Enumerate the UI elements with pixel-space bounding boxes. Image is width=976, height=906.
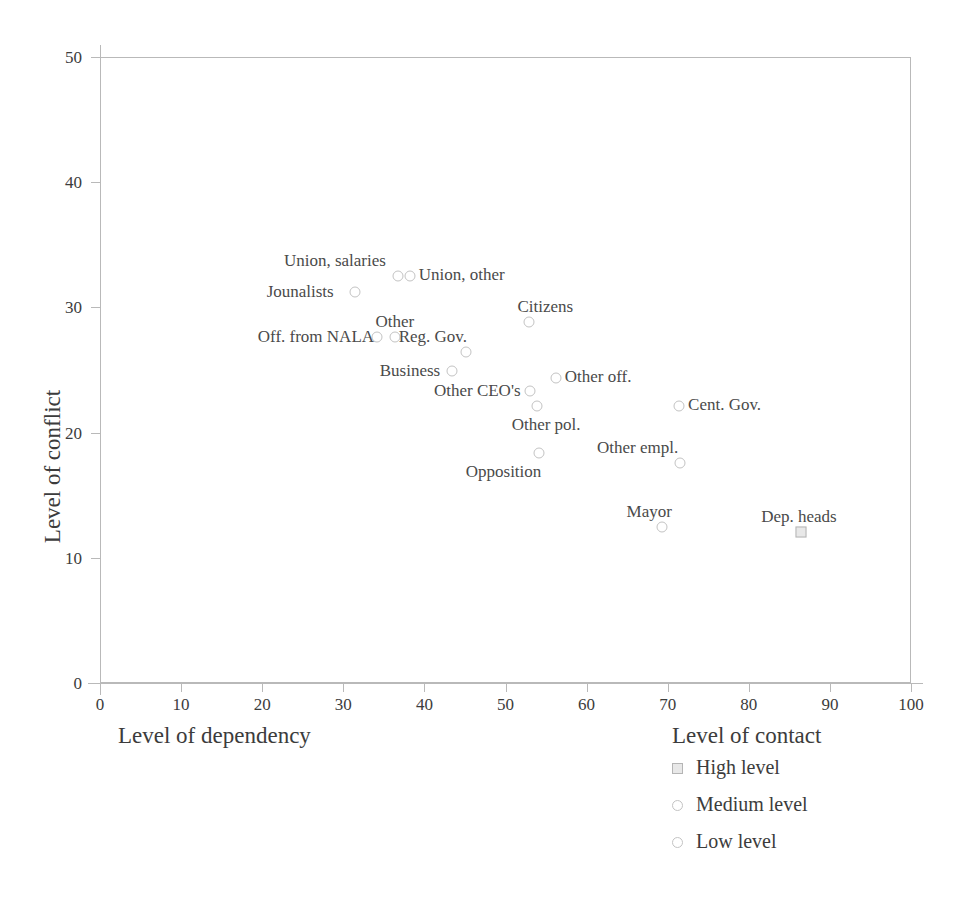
x-axis-tick-label: 20 (254, 696, 271, 713)
x-axis-tick (911, 683, 912, 692)
data-point-label: Dep. heads (761, 508, 837, 525)
data-point-label: Other pol. (512, 416, 581, 433)
data-point-label: Jounalists (267, 283, 334, 300)
legend-item-label: High level (696, 757, 780, 777)
plot-area (100, 57, 911, 683)
data-point[interactable] (532, 401, 543, 412)
data-point-label: Union, salaries (284, 252, 386, 269)
x-axis-tick-label: 100 (898, 696, 924, 713)
y-axis-tick (91, 307, 100, 308)
y-axis-tick (91, 433, 100, 434)
x-axis-tick (262, 683, 263, 692)
x-axis-tick-label: 40 (416, 696, 433, 713)
x-axis-tick-label: 0 (96, 696, 105, 713)
legend-marker-circle-icon (672, 800, 683, 811)
data-point[interactable] (674, 401, 685, 412)
y-axis-title-conflict: Level of conflict (41, 357, 64, 577)
data-point-label: Business (380, 362, 440, 379)
data-point[interactable] (460, 347, 471, 358)
data-point-label: Off. from NALA (258, 328, 374, 345)
x-axis-tick (749, 683, 750, 692)
data-point-label: Opposition (466, 463, 542, 480)
y-axis-tick-label: 0 (40, 675, 82, 692)
data-point[interactable] (393, 271, 404, 282)
marker-circle-icon (446, 366, 457, 377)
marker-circle-icon (657, 521, 668, 532)
data-point[interactable] (524, 386, 535, 397)
data-point[interactable] (404, 271, 415, 282)
data-point-label: Cent. Gov. (688, 396, 761, 413)
scatter-chart-figure: 010203040506070809010001020304050Union, … (0, 0, 976, 906)
x-axis-title-contact: Level of contact (672, 724, 821, 747)
data-point-label: Mayor (627, 503, 672, 520)
x-axis-tick-label: 10 (173, 696, 190, 713)
data-point[interactable] (550, 372, 561, 383)
data-point[interactable] (795, 526, 806, 537)
marker-circle-icon (674, 401, 685, 412)
x-axis-tick-label: 30 (335, 696, 352, 713)
x-axis-tick-label: 90 (821, 696, 838, 713)
legend-item-label: Low level (696, 831, 777, 851)
x-axis-tick-label: 60 (578, 696, 595, 713)
y-axis-tick (91, 558, 100, 559)
legend-item-label: Medium level (696, 794, 808, 814)
x-axis-tick (424, 683, 425, 692)
legend-marker-square-icon (672, 763, 683, 774)
x-axis-tick (587, 683, 588, 692)
marker-circle-icon (550, 372, 561, 383)
marker-circle-icon (524, 317, 535, 328)
data-point[interactable] (533, 447, 544, 458)
data-point-label: Union, other (419, 266, 505, 283)
data-point[interactable] (674, 457, 685, 468)
marker-circle-icon (393, 271, 404, 282)
x-axis-tick-label: 80 (740, 696, 757, 713)
x-axis-tick (343, 683, 344, 692)
marker-circle-icon (524, 386, 535, 397)
data-point[interactable] (446, 366, 457, 377)
y-axis-line (100, 45, 101, 695)
marker-circle-icon (404, 271, 415, 282)
x-axis-tick (506, 683, 507, 692)
marker-circle-icon (674, 457, 685, 468)
x-axis-tick-label: 50 (497, 696, 514, 713)
data-point[interactable] (524, 317, 535, 328)
marker-square-icon (795, 526, 806, 537)
marker-circle-icon (533, 447, 544, 458)
y-axis-tick (91, 57, 100, 58)
x-axis-tick (830, 683, 831, 692)
marker-circle-icon (349, 287, 360, 298)
data-point-label: Reg. Gov. (399, 328, 467, 345)
y-axis-tick-label: 30 (40, 299, 82, 316)
data-point-label: Citizens (517, 298, 573, 315)
data-point-label: Other empl. (597, 439, 678, 456)
y-axis-tick-label: 50 (40, 49, 82, 66)
marker-circle-icon (532, 401, 543, 412)
x-axis-tick (181, 683, 182, 692)
marker-circle-icon (460, 347, 471, 358)
x-axis-title-dependency: Level of dependency (118, 724, 311, 747)
legend-marker-circle-icon (672, 837, 683, 848)
data-point-label: Other off. (565, 368, 632, 385)
data-point-label: Other CEO's (434, 382, 521, 399)
x-axis-tick (668, 683, 669, 692)
y-axis-tick (91, 182, 100, 183)
data-point[interactable] (657, 521, 668, 532)
x-axis-tick-label: 70 (659, 696, 676, 713)
x-axis-tick (100, 683, 101, 692)
data-point[interactable] (349, 287, 360, 298)
y-axis-tick-label: 40 (40, 174, 82, 191)
y-axis-tick (91, 683, 100, 684)
